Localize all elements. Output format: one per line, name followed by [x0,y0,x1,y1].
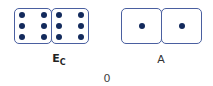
pip [78,34,84,40]
pip [139,23,145,29]
pip [56,12,62,18]
pip [41,12,47,18]
die-one [161,8,202,44]
pip [179,23,185,29]
label-a: A [146,53,176,66]
label-main: E [52,52,60,65]
pip [56,23,62,29]
die-one [121,8,162,44]
pip [56,34,62,40]
pip [41,34,47,40]
pip [19,12,25,18]
pip [78,23,84,29]
pip [19,23,25,29]
label-subscript: C [60,58,66,67]
die-six [51,8,89,44]
pip [78,12,84,18]
bottom-label: 0 [92,72,122,85]
pip [41,23,47,29]
dice-pair-a [121,8,202,44]
dice-pair-ec [14,8,89,44]
label-ec: EC [44,52,74,67]
pip [19,34,25,40]
die-six [14,8,52,44]
